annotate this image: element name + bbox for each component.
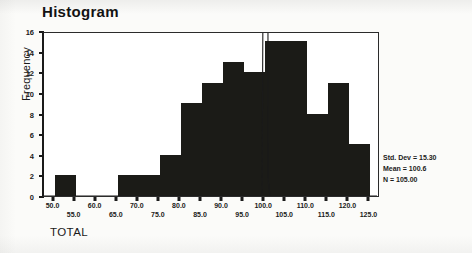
x-tick-label: 60.0 bbox=[88, 202, 102, 209]
x-tick-label: 75.0 bbox=[151, 211, 165, 218]
x-tick-label: 65.0 bbox=[109, 211, 123, 218]
x-tick-mark bbox=[177, 197, 180, 201]
x-tick-label: 85.0 bbox=[193, 211, 207, 218]
x-tick-label: 105.0 bbox=[275, 211, 293, 218]
y-tick-label: 8 bbox=[30, 110, 34, 119]
plot-area bbox=[42, 32, 379, 197]
x-tick-mark bbox=[283, 197, 286, 201]
y-tick-label: 14 bbox=[26, 48, 34, 57]
x-tick-mark bbox=[72, 197, 75, 201]
x-tick-mark bbox=[114, 197, 117, 201]
x-axis-title: TOTAL bbox=[50, 226, 88, 238]
page-title: Histogram bbox=[42, 3, 119, 20]
x-tick-mark bbox=[198, 197, 201, 201]
x-tick-label: 95.0 bbox=[235, 211, 249, 218]
x-tick-mark bbox=[135, 197, 138, 201]
normal-curve bbox=[44, 33, 378, 196]
histogram-page: Histogram Frequency 0246810121416 50.055… bbox=[0, 0, 472, 253]
stat-std-dev: Std. Dev = 15.30 bbox=[383, 152, 469, 163]
x-tick-mark bbox=[51, 197, 54, 201]
x-tick-label: 70.0 bbox=[130, 202, 144, 209]
x-tick-label: 115.0 bbox=[318, 211, 335, 218]
y-tick-label: 6 bbox=[30, 131, 34, 140]
y-tick-label: 12 bbox=[26, 69, 34, 78]
x-tick-label: 50.0 bbox=[46, 202, 60, 209]
y-tick-label: 16 bbox=[26, 28, 34, 37]
x-tick-mark bbox=[325, 197, 328, 201]
statistics-box: Std. Dev = 15.30 Mean = 100.6 N = 105.00 bbox=[383, 152, 469, 185]
x-tick-label: 90.0 bbox=[214, 202, 228, 209]
stat-n: N = 105.00 bbox=[383, 174, 469, 185]
x-tick-mark bbox=[220, 197, 223, 201]
x-tick-mark bbox=[367, 197, 370, 201]
x-tick-label: 125.0 bbox=[360, 211, 378, 218]
x-tick-mark bbox=[346, 197, 349, 201]
x-tick-label: 80.0 bbox=[172, 202, 186, 209]
x-tick-label: 100.0 bbox=[254, 202, 272, 209]
x-tick-mark bbox=[262, 197, 265, 201]
y-axis: 0246810121416 bbox=[14, 26, 44, 204]
x-tick-mark bbox=[156, 197, 159, 201]
x-tick-label: 110.0 bbox=[297, 202, 314, 209]
x-tick-mark bbox=[241, 197, 244, 201]
stat-mean: Mean = 100.6 bbox=[383, 163, 469, 174]
y-tick-label: 0 bbox=[30, 193, 34, 202]
x-tick-label: 120.0 bbox=[339, 202, 357, 209]
x-axis: 50.055.060.065.070.075.080.085.090.095.0… bbox=[42, 197, 379, 223]
y-tick-label: 10 bbox=[26, 89, 34, 98]
x-tick-mark bbox=[93, 197, 96, 201]
y-tick-label: 4 bbox=[30, 151, 34, 160]
x-tick-label: 55.0 bbox=[67, 211, 81, 218]
x-tick-mark bbox=[304, 197, 307, 201]
y-tick-label: 2 bbox=[30, 172, 34, 181]
